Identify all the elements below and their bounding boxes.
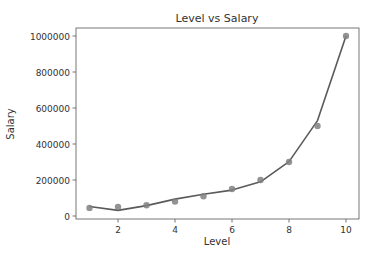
x-tick-label: 8 — [286, 225, 292, 235]
x-axis-label: Level — [204, 236, 230, 247]
data-point — [343, 33, 349, 39]
data-point — [314, 123, 320, 129]
y-tick-label: 800000 — [36, 68, 71, 78]
chart: Level vs Salary 020000040000060000080000… — [0, 0, 377, 260]
data-point — [115, 204, 121, 210]
data-point — [200, 193, 206, 199]
y-tick-label: 400000 — [36, 140, 71, 150]
chart-title: Level vs Salary — [176, 12, 259, 25]
data-point — [257, 177, 263, 183]
data-point — [172, 198, 178, 204]
data-point — [143, 202, 149, 208]
data-point — [229, 186, 235, 192]
x-tick-label: 6 — [229, 225, 235, 235]
data-point — [86, 205, 92, 211]
x-axis-ticks: 246810 — [115, 219, 352, 235]
y-tick-label: 600000 — [36, 104, 71, 114]
y-tick-label: 1000000 — [30, 32, 70, 42]
x-tick-label: 2 — [115, 225, 121, 235]
data-points — [86, 33, 349, 211]
y-tick-label: 0 — [64, 212, 70, 222]
x-tick-label: 10 — [340, 225, 352, 235]
y-tick-label: 200000 — [36, 176, 71, 186]
regression-line — [90, 36, 347, 210]
y-axis-ticks: 02000004000006000008000001000000 — [30, 32, 76, 222]
x-tick-label: 4 — [172, 225, 178, 235]
y-axis-label: Salary — [5, 108, 16, 139]
data-point — [286, 159, 292, 165]
